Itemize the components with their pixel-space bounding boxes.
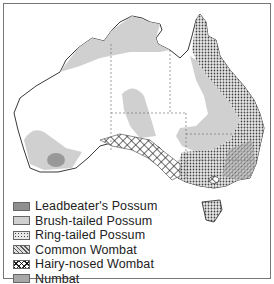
swatch-numbat (13, 274, 30, 283)
swatch-leadbeaters (13, 202, 30, 211)
legend-item: Ring-tailed Possum (13, 228, 157, 243)
map-legend: Leadbeater's Possum Brush-tailed Possum … (13, 199, 157, 284)
legend-item: Leadbeater's Possum (13, 199, 157, 214)
legend-item: Numbat (13, 272, 157, 284)
swatch-ring-tailed (13, 231, 30, 240)
tasmania (202, 200, 222, 222)
swatch-brush-tailed (13, 216, 30, 225)
swatch-common-wombat (13, 245, 30, 254)
legend-item: Common Wombat (13, 243, 157, 258)
legend-item: Brush-tailed Possum (13, 214, 157, 229)
swatch-hairy-nosed (13, 260, 30, 269)
legend-item: Hairy-nosed Wombat (13, 257, 157, 272)
